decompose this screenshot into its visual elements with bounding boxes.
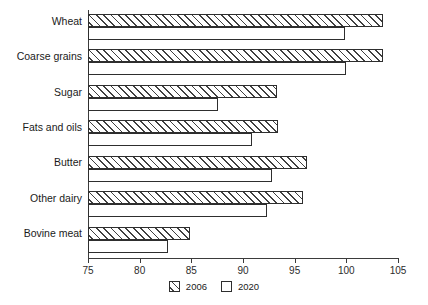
x-axis-tick [140,258,141,263]
x-axis-tick [243,258,244,263]
bar-2006 [88,227,190,240]
chart-row: Wheat [0,10,428,45]
chart-row: Other dairy [0,187,428,222]
category-label: Other dairy [0,192,82,204]
category-label: Fats and oils [0,121,82,133]
x-axis-tick [398,258,399,263]
x-axis-tick [295,258,296,263]
bar-2020 [88,133,252,146]
chart-row: Butter [0,152,428,187]
x-axis-tick-label: 95 [289,265,300,276]
legend-label-2020: 2020 [238,281,259,292]
x-axis-tick [191,258,192,263]
bar-2020 [88,98,218,111]
category-label: Butter [0,156,82,168]
chart-row: Sugar [0,81,428,116]
category-label: Bovine meat [0,227,82,239]
bar-2020 [88,204,267,217]
legend-item-2006[interactable]: 2006 [169,281,207,292]
x-axis-tick-label: 75 [82,265,93,276]
bar-2006 [88,120,278,133]
bar-2006 [88,85,277,98]
hatched-square-icon [169,281,180,292]
chart-row: Fats and oils [0,116,428,151]
bar-2020 [88,169,272,182]
bar-2020 [88,62,346,75]
bar-2006 [88,14,383,27]
x-axis-tick [346,258,347,263]
bar-2006 [88,49,383,62]
bar-2020 [88,27,345,40]
x-axis-tick-label: 85 [186,265,197,276]
bar-2006 [88,156,307,169]
x-axis-tick-label: 100 [338,265,355,276]
category-label: Sugar [0,86,82,98]
bar-2006 [88,191,303,204]
x-axis-tick-label: 105 [390,265,407,276]
category-label: Wheat [0,15,82,27]
x-axis-tick-label: 90 [237,265,248,276]
chart-row: Coarse grains [0,45,428,80]
x-axis-tick [88,258,89,263]
legend-label-2006: 2006 [186,281,207,292]
chart-legend: 2006 2020 [0,281,428,292]
empty-square-icon [221,281,232,292]
bar-chart: 7580859095100105 WheatCoarse grainsSugar… [0,0,428,305]
legend-item-2020[interactable]: 2020 [221,281,259,292]
x-axis-tick-label: 80 [134,265,145,276]
chart-row: Bovine meat [0,223,428,258]
bar-2020 [88,240,168,253]
category-label: Coarse grains [0,50,82,62]
